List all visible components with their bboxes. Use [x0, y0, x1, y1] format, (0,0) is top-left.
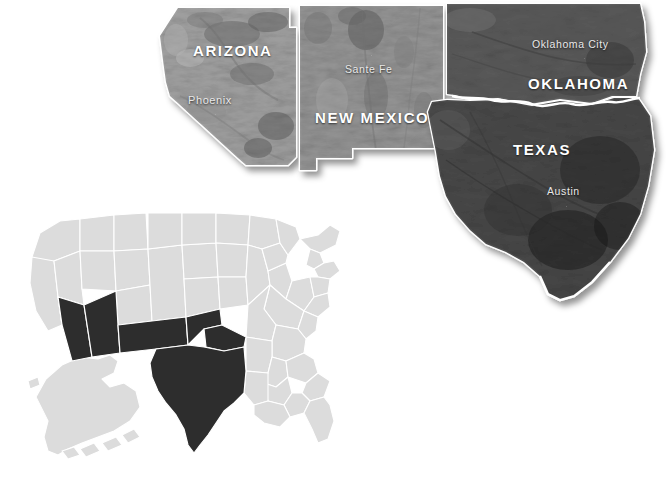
united-states-locator-inset [18, 205, 358, 480]
texas-terrain [424, 92, 664, 308]
inset-state-texas [150, 345, 246, 453]
inset-state-oklahoma-east [204, 325, 246, 351]
oklahoma-terrain [440, 0, 656, 110]
new-mexico-terrain [296, 0, 448, 176]
map-figure: ARIZONA NEW MEXICO OKLAHOMA TEXAS Phoeni… [0, 0, 667, 486]
inset-map-svg [18, 205, 358, 480]
